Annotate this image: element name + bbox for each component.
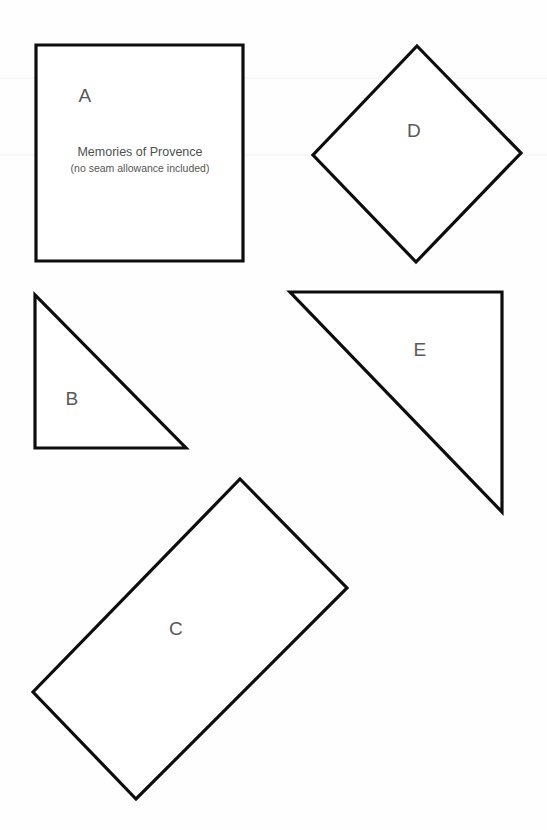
caption-title: Memories of Provence (71, 144, 210, 161)
piece-label-d: D (407, 121, 421, 140)
piece-label-e: E (413, 340, 426, 359)
caption-subtitle: (no seam allowance included) (71, 161, 210, 175)
piece-label-c: C (169, 619, 183, 638)
piece-label-a: A (78, 86, 91, 105)
piece-label-b: B (65, 389, 78, 408)
pattern-piece-b[interactable] (35, 295, 186, 448)
pattern-piece-e[interactable] (290, 292, 502, 512)
pattern-sheet: A Memories of Provence (no seam allowanc… (0, 0, 547, 830)
pattern-piece-c[interactable] (33, 479, 347, 799)
pattern-caption: Memories of Provence (no seam allowance … (71, 144, 210, 175)
pattern-canvas (0, 0, 547, 830)
